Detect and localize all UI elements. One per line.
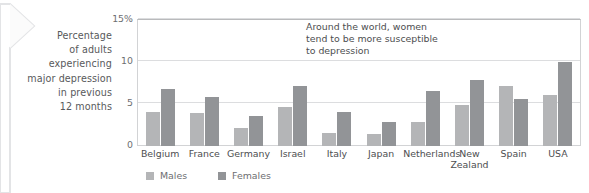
bar-females-japan xyxy=(382,122,396,146)
bar-group xyxy=(499,20,528,146)
annotation-line: to depression xyxy=(306,45,438,57)
x-tick-label-israel: Israel xyxy=(271,148,315,159)
y-tick-label: 15% xyxy=(92,14,133,24)
x-tick-label-spain: Spain xyxy=(492,148,536,159)
bar-group xyxy=(455,20,484,146)
y-tick-label: 0 xyxy=(92,140,133,150)
x-tick-label-japan: Japan xyxy=(359,148,403,159)
bar-females-usa xyxy=(558,62,572,146)
bar-females-italy xyxy=(337,112,351,146)
bar-females-netherlands xyxy=(426,91,440,146)
bar-males-netherlands xyxy=(411,122,425,146)
x-tick-label-line: Netherlands xyxy=(403,148,447,159)
x-tick-label-germany: Germany xyxy=(226,148,270,159)
x-tick-label-line: Israel xyxy=(271,148,315,159)
x-tick-label-usa: USA xyxy=(536,148,580,159)
x-tick-label-line: Zealand xyxy=(447,159,491,170)
bar-females-spain xyxy=(514,99,528,146)
x-tick-label-line: New xyxy=(447,148,491,159)
y-tick-label: 10 xyxy=(92,56,133,66)
bar-group xyxy=(234,20,263,146)
x-tick-label-line: Italy xyxy=(315,148,359,159)
bar-females-belgium xyxy=(161,89,175,146)
legend-swatch-icon xyxy=(146,172,154,180)
x-tick-label-line: USA xyxy=(536,148,580,159)
x-tick-label-line: Germany xyxy=(226,148,270,159)
chart-annotation: Around the world, women tend to be more … xyxy=(306,21,438,56)
legend-item-females[interactable]: Females xyxy=(218,170,271,181)
bar-males-belgium xyxy=(146,112,160,146)
bar-females-france xyxy=(205,97,219,146)
bar-group xyxy=(146,20,175,146)
bar-females-israel xyxy=(293,86,307,146)
bar-females-new-zealand xyxy=(470,80,484,146)
gridline xyxy=(138,18,580,19)
x-tick-label-line: Spain xyxy=(492,148,536,159)
bar-males-italy xyxy=(322,133,336,146)
x-tick-label-line: Japan xyxy=(359,148,403,159)
bar-males-france xyxy=(190,113,204,146)
x-tick-label-netherlands: Netherlands xyxy=(403,148,447,159)
bar-males-spain xyxy=(499,86,513,146)
bar-group xyxy=(278,20,307,146)
bar-group xyxy=(543,20,572,146)
bar-males-japan xyxy=(367,134,381,146)
bar-females-germany xyxy=(249,116,263,146)
bar-group xyxy=(190,20,219,146)
x-tick-label-france: France xyxy=(182,148,226,159)
bar-males-usa xyxy=(543,95,557,146)
x-tick-label-line: Belgium xyxy=(138,148,182,159)
legend-label: Females xyxy=(232,170,271,181)
y-tick-label: 5 xyxy=(92,98,133,108)
bar-males-israel xyxy=(278,107,292,146)
x-tick-label-line: France xyxy=(182,148,226,159)
x-tick-label-italy: Italy xyxy=(315,148,359,159)
bar-males-new-zealand xyxy=(455,105,469,146)
x-tick-label-belgium: Belgium xyxy=(138,148,182,159)
chart-figure: Percentage of adults experiencing major … xyxy=(0,0,589,193)
annotation-line: tend to be more susceptible xyxy=(306,33,438,45)
y-axis: 051015% xyxy=(92,19,133,146)
x-axis-labels: BelgiumFranceGermanyIsraelItalyJapanNeth… xyxy=(138,148,580,176)
bar-males-germany xyxy=(234,128,248,146)
legend-swatch-icon xyxy=(218,172,226,180)
annotation-line: Around the world, women xyxy=(306,21,438,33)
legend-label: Males xyxy=(160,170,187,181)
x-tick-label-new-zealand: NewZealand xyxy=(447,148,491,171)
legend-item-males[interactable]: Males xyxy=(146,170,187,181)
